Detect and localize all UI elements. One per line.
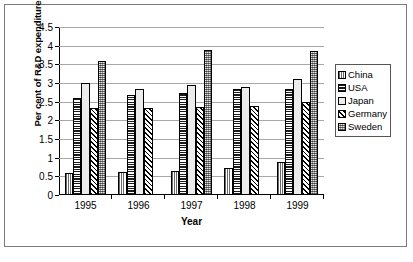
legend-swatch-sweden-icon [338,123,346,131]
y-tick-label: 1 [23,152,53,163]
legend-label: USA [348,82,368,93]
legend-swatch-china-icon [338,71,346,79]
bar-sweden-1997 [204,50,212,195]
bar-usa-1997 [179,93,187,195]
y-tick-label: 1.5 [23,134,53,145]
x-tick-label-1997: 1997 [165,200,218,211]
bar-group-inner [65,27,106,195]
y-tick-label: 2.5 [23,96,53,107]
x-tick-mark [217,195,218,199]
legend-label: Japan [348,95,374,106]
plot-area: 00.511.522.533.544.5 [59,27,324,195]
bar-sweden-1995 [98,61,106,195]
legend-item-usa[interactable]: USA [338,81,387,94]
x-tick-mark [270,195,271,199]
bar-usa-1999 [285,89,293,195]
y-tick-label: 2 [23,115,53,126]
x-tick-label-1998: 1998 [218,200,271,211]
chart-legend: ChinaUSAJapanGermanySweden [335,64,391,137]
legend-item-germany[interactable]: Germany [338,107,387,120]
legend-swatch-germany-icon [338,110,346,118]
bar-germany-1998 [250,106,259,195]
x-axis-tick-labels: 19951996199719981999 [59,200,324,211]
y-tick-label: 4 [23,40,53,51]
bar-usa-1996 [127,95,136,195]
y-tick-label: 0 [23,190,53,201]
legend-swatch-japan-icon [338,97,346,105]
bar-group-1997 [165,27,218,195]
bar-germany-1995 [90,108,98,195]
bar-germany-1997 [196,107,204,195]
legend-label: China [348,69,373,80]
y-tick-label: 0.5 [23,171,53,182]
bar-group-inner [171,27,212,195]
bar-japan-1995 [81,83,89,195]
y-tick-label: 3 [23,78,53,89]
bar-group-1995 [59,27,112,195]
legend-label: Sweden [348,121,382,132]
bar-japan-1996 [135,89,144,195]
legend-item-sweden[interactable]: Sweden [338,120,387,133]
chart-figure: Per cent of R&D expenditure 00.511.522.5… [0,0,413,262]
bar-japan-1998 [241,87,250,195]
x-tick-mark [164,195,165,199]
bar-china-1996 [118,172,127,195]
x-tick-label-1995: 1995 [59,200,112,211]
y-tick-mark [55,195,59,196]
bar-groups [59,27,324,195]
bar-usa-1995 [73,98,81,195]
bar-germany-1999 [302,102,310,195]
x-tick-label-1999: 1999 [271,200,324,211]
bar-group-inner [277,27,318,195]
bar-china-1999 [277,162,285,195]
bar-china-1995 [65,173,73,195]
legend-item-japan[interactable]: Japan [338,94,387,107]
bar-group-inner [224,27,265,195]
bar-group-1999 [271,27,324,195]
y-tick-label: 3.5 [23,59,53,70]
bar-group-inner [118,27,159,195]
x-tick-label-1996: 1996 [112,200,165,211]
bar-japan-1999 [293,79,301,195]
bar-germany-1996 [144,108,153,195]
x-tick-mark [111,195,112,199]
bar-china-1997 [171,171,179,195]
bar-sweden-1999 [310,51,318,195]
legend-label: Germany [348,108,387,119]
legend-swatch-usa-icon [338,84,346,92]
y-tick-label: 4.5 [23,22,53,33]
bar-japan-1997 [187,85,195,195]
x-tick-mark [323,195,324,199]
legend-item-china[interactable]: China [338,68,387,81]
x-axis-title: Year [59,216,324,227]
bar-group-1996 [112,27,165,195]
bar-group-1998 [218,27,271,195]
bar-china-1998 [224,168,233,195]
bar-usa-1998 [233,89,242,195]
